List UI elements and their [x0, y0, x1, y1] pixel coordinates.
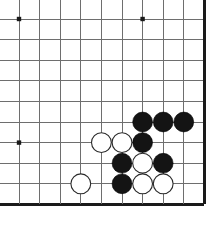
white-stone[interactable]	[133, 153, 153, 173]
stones[interactable]	[71, 112, 194, 194]
black-stone[interactable]	[112, 153, 132, 173]
black-stone[interactable]	[133, 112, 153, 132]
star-point	[140, 17, 144, 21]
black-stone[interactable]	[153, 112, 173, 132]
black-stone[interactable]	[133, 133, 153, 153]
white-stone[interactable]	[92, 133, 112, 153]
star-point	[17, 17, 21, 21]
grid-lines	[0, 0, 204, 204]
white-stone[interactable]	[153, 174, 173, 194]
black-stone[interactable]	[112, 174, 132, 194]
star-point	[17, 140, 21, 144]
black-stone[interactable]	[153, 153, 173, 173]
go-board[interactable]	[0, 0, 213, 226]
white-stone[interactable]	[133, 174, 153, 194]
white-stone[interactable]	[71, 174, 91, 194]
white-stone[interactable]	[112, 133, 132, 153]
go-board-panel	[0, 0, 213, 226]
black-stone[interactable]	[174, 112, 194, 132]
